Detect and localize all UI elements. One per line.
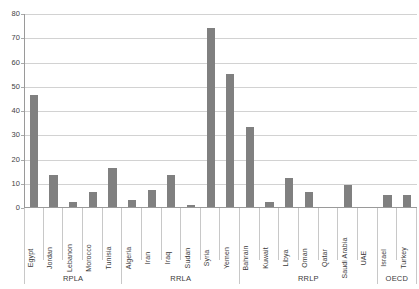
x-tick-cell: Kuwait <box>260 208 280 260</box>
bar <box>246 127 254 207</box>
x-group-cell: RRLP <box>240 260 378 284</box>
y-tick-label: 10 <box>11 180 20 188</box>
x-tick-cell: Sudan <box>181 208 201 260</box>
x-group-label: RRLA <box>122 275 239 283</box>
y-axis: 01020304050607080 <box>0 0 24 289</box>
x-tick-cell: Turkey <box>397 208 417 260</box>
x-tick-cell: Saudi Arabia <box>338 208 358 260</box>
y-tick-label: 20 <box>11 156 20 164</box>
x-tick-cell: Libya <box>279 208 299 260</box>
x-tick-cell: Syria <box>201 208 221 260</box>
x-tick-cell: Oman <box>299 208 319 260</box>
x-group-label: RRLP <box>240 275 377 283</box>
x-tick-cell: Morocco <box>83 208 103 260</box>
bar <box>344 185 352 207</box>
bar <box>226 74 234 207</box>
bar <box>305 192 313 207</box>
y-tick-label: 30 <box>11 132 20 140</box>
bar <box>69 202 77 207</box>
bar <box>49 175 57 207</box>
x-axis-category-labels: EgyptJordanLebanonMoroccoTunisiaAlgeriaI… <box>24 208 417 260</box>
bar <box>167 175 175 207</box>
bar <box>30 95 38 207</box>
bar <box>383 195 391 207</box>
y-tick-label: 40 <box>11 107 20 115</box>
bar <box>403 195 411 207</box>
y-tick-label: 0 <box>16 204 20 212</box>
bar <box>285 178 293 207</box>
bar <box>207 28 215 207</box>
x-group-label: RPLA <box>25 275 121 283</box>
x-tick-cell: Qatar <box>319 208 339 260</box>
bar <box>265 202 273 207</box>
x-tick-cell: Lebanon <box>63 208 83 260</box>
plot-area <box>24 14 417 208</box>
bar <box>187 205 195 207</box>
x-tick-cell: Algeria <box>122 208 142 260</box>
bar-chart: 01020304050607080 EgyptJordanLebanonMoro… <box>0 0 419 289</box>
x-group-label: OECD <box>378 275 416 283</box>
y-tick-label: 60 <box>11 59 20 67</box>
bar <box>128 200 136 207</box>
x-tick-cell: Bahrain <box>240 208 260 260</box>
x-tick-cell: UAE <box>358 208 378 260</box>
x-group-cell: RPLA <box>24 260 122 284</box>
x-group-cell: RRLA <box>122 260 240 284</box>
x-tick-cell: Jordan <box>44 208 64 260</box>
x-tick-cell: Tunisia <box>103 208 123 260</box>
bar <box>108 168 116 207</box>
bar <box>89 192 97 207</box>
x-tick-cell: Israel <box>378 208 398 260</box>
x-tick-cell: Yemen <box>221 208 241 260</box>
bars-container <box>24 14 417 208</box>
x-tick-cell: Egypt <box>24 208 44 260</box>
x-group-cell: OECD <box>378 260 417 284</box>
y-tick-label: 80 <box>11 10 20 18</box>
bar <box>148 190 156 207</box>
x-tick-cell: Iran <box>142 208 162 260</box>
y-tick-label: 70 <box>11 35 20 43</box>
y-tick-label: 50 <box>11 83 20 91</box>
x-axis-group-labels: RPLARRLARRLPOECD <box>24 260 417 289</box>
x-tick-cell: Iraq <box>162 208 182 260</box>
